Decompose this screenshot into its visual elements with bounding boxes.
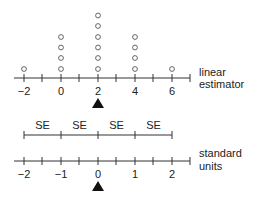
tick-label: 4 [132,85,138,97]
tick-label: 6 [169,85,175,97]
sampling-distribution-diagram: −2 0 2 4 6 linear estimator SE SE SE SE [0,0,257,199]
tick-label: −2 [18,168,31,180]
dot-plot [22,13,175,71]
tick-label: −1 [55,168,68,180]
se-label: SE [146,119,161,131]
tick-label: 0 [95,168,101,180]
tick-label: 2 [95,85,101,97]
tick-label: 0 [58,85,64,97]
tick-label: −2 [18,85,31,97]
se-label: SE [72,119,87,131]
pointer-triangle-icon [92,181,104,191]
se-scale-bar: SE SE SE SE [24,119,172,139]
axis-label-standard: standard [199,147,242,159]
axis-label-units: units [199,160,223,172]
axis-label-linear: linear [199,66,226,78]
linear-estimator-axis: −2 0 2 4 6 linear estimator [14,66,245,108]
standard-units-axis: −2 −1 0 1 2 standard units [14,147,242,191]
pointer-triangle-icon [92,98,104,108]
se-label: SE [35,119,50,131]
tick-label: 2 [169,168,175,180]
axis-label-estimator: estimator [199,78,245,90]
se-label: SE [109,119,124,131]
tick-label: 1 [132,168,138,180]
